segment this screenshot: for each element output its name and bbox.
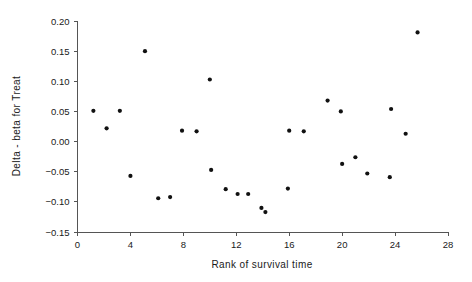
- data-point: [128, 174, 132, 178]
- y-tick-label: 0.00: [51, 136, 70, 147]
- x-tick-label: 20: [337, 239, 348, 250]
- data-point: [353, 155, 357, 159]
- y-tick-label: 0.20: [51, 16, 70, 27]
- x-axis-title: Rank of survival time: [211, 259, 312, 270]
- data-point: [340, 162, 344, 166]
- data-point: [246, 192, 250, 196]
- x-tick-label: 12: [231, 239, 242, 250]
- x-tick-label: 16: [284, 239, 295, 250]
- data-point: [180, 129, 184, 133]
- data-point: [224, 187, 228, 191]
- y-tick-label: 0.10: [51, 76, 70, 87]
- y-tick-label: −0.10: [45, 196, 69, 207]
- chart-canvas: −0.15−0.10−0.050.000.050.100.150.20 0481…: [0, 0, 472, 282]
- data-point: [263, 210, 267, 214]
- y-tick-label: 0.15: [51, 46, 70, 57]
- x-tick-label: 24: [390, 239, 401, 250]
- data-point: [168, 195, 172, 199]
- data-point: [209, 168, 213, 172]
- x-tick-label: 8: [181, 239, 186, 250]
- data-point: [415, 30, 419, 34]
- data-point: [236, 192, 240, 196]
- data-point: [91, 109, 95, 113]
- data-point: [388, 175, 392, 179]
- y-axis-title: Delta - beta for Treat: [11, 76, 22, 177]
- scatter-plot-figure: −0.15−0.10−0.050.000.050.100.150.20 0481…: [0, 0, 472, 282]
- data-point: [404, 132, 408, 136]
- data-point: [105, 126, 109, 130]
- data-point: [302, 129, 306, 133]
- data-point: [259, 206, 263, 210]
- data-point: [286, 186, 290, 190]
- data-point: [365, 171, 369, 175]
- data-point: [143, 49, 147, 53]
- y-tick-label: −0.15: [45, 227, 69, 238]
- data-point: [194, 129, 198, 133]
- data-point: [208, 77, 212, 81]
- y-tick-label: −0.05: [45, 166, 69, 177]
- data-point: [389, 107, 393, 111]
- data-point: [339, 109, 343, 113]
- x-tick-label: 28: [443, 239, 454, 250]
- data-point: [156, 196, 160, 200]
- x-tick-label: 0: [75, 239, 80, 250]
- data-point: [287, 129, 291, 133]
- data-point: [118, 109, 122, 113]
- y-tick-label: 0.05: [51, 106, 70, 117]
- x-tick-label: 4: [128, 239, 133, 250]
- data-point: [325, 98, 329, 102]
